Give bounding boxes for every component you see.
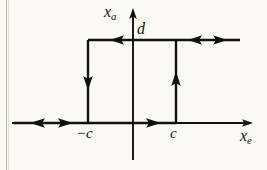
x-tick-label-positive-c: c: [170, 126, 177, 141]
upper-branch: [88, 35, 240, 45]
output-level-label-d: d: [137, 21, 145, 37]
y-axis-label: xa: [104, 4, 117, 22]
x-axis-label: xe: [240, 128, 252, 146]
falling-edge: [83, 40, 93, 123]
rising-edge: [171, 40, 181, 123]
hysteresis-figure: xa xe d −c c: [0, 0, 267, 170]
y-axis: [129, 8, 137, 160]
plot-canvas: [0, 0, 267, 170]
x-tick-label-negative-c: −c: [76, 126, 93, 141]
lower-branch: [14, 118, 176, 128]
